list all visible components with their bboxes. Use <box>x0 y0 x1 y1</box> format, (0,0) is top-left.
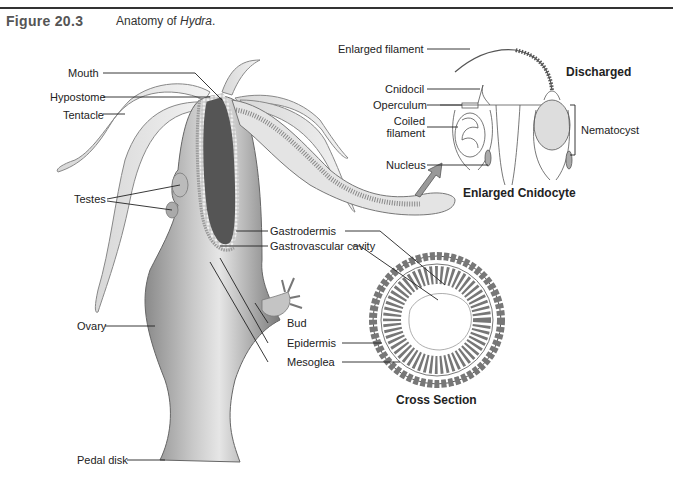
label-testes: Testes <box>74 193 106 205</box>
heading-discharged: Discharged <box>566 66 631 78</box>
label-mouth: Mouth <box>68 67 99 79</box>
heading-enlarged-cnidocyte: Enlarged Cnidocyte <box>463 187 576 199</box>
label-operculum: Operculum <box>373 99 427 111</box>
label-epidermis: Epidermis <box>287 337 336 349</box>
heading-cross-section: Cross Section <box>396 394 477 406</box>
label-ovary: Ovary <box>77 320 106 332</box>
label-mesoglea: Mesoglea <box>287 356 335 368</box>
label-bud: Bud <box>287 317 307 329</box>
label-tentacle: Tentacle <box>63 109 104 121</box>
label-hypostome: Hypostome <box>50 91 106 103</box>
cross-section-diagram <box>373 256 501 384</box>
label-nucleus: Nucleus <box>386 159 426 171</box>
label-coiled-filament-line1: Coiled <box>385 115 425 127</box>
label-coiled-filament-line2: filament <box>385 127 425 139</box>
label-pedal-disk: Pedal disk <box>77 454 128 466</box>
label-nematocyst: Nematocyst <box>581 124 639 136</box>
label-gastrovascular-cavity: Gastrovascular cavity <box>270 240 375 252</box>
cnidocyte-discharged <box>455 50 572 180</box>
label-gastrodermis: Gastrodermis <box>270 225 336 237</box>
label-cnidocil: Cnidocil <box>385 83 424 95</box>
label-enlarged-filament: Enlarged filament <box>338 43 424 55</box>
